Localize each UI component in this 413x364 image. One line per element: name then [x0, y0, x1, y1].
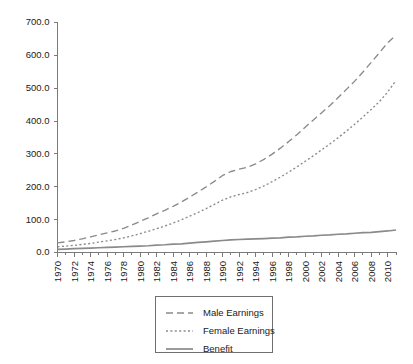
x-tick-label: 1990	[217, 261, 228, 282]
y-tick-label: 0.0	[36, 246, 49, 257]
x-tick-label: 2008	[366, 261, 377, 282]
x-tick-label: 1978	[118, 261, 129, 282]
axes-group	[58, 22, 397, 253]
x-tick-label: 1996	[267, 261, 278, 282]
y-tick-label: 500.0	[26, 82, 50, 93]
y-axis-ticks	[54, 23, 58, 253]
data-series-group	[58, 35, 397, 249]
series-line-female-earnings	[58, 80, 397, 246]
legend-label: Female Earnings	[203, 325, 275, 336]
y-tick-label: 300.0	[26, 148, 50, 159]
x-tick-label: 1974	[85, 261, 96, 282]
x-tick-label: 1980	[135, 261, 146, 282]
series-line-male-earnings	[58, 35, 397, 243]
x-tick-label: 1994	[250, 261, 261, 282]
y-axis-labels: 700.0600.0500.0400.0300.0200.0100.00.0	[26, 16, 50, 257]
x-axis-labels: 1970197219741976197819801982198419861988…	[52, 261, 393, 282]
y-tick-label: 400.0	[26, 115, 50, 126]
legend-label: Benefit	[203, 343, 233, 354]
x-tick-label: 2000	[300, 261, 311, 282]
y-tick-label: 200.0	[26, 181, 50, 192]
x-tick-label: 1992	[234, 261, 245, 282]
y-tick-label: 700.0	[26, 16, 50, 27]
chart-legend: Male EarningsFemale EarningsBenefit	[156, 297, 276, 355]
x-tick-label: 2002	[316, 261, 327, 282]
x-tick-label: 1986	[184, 261, 195, 282]
x-tick-label: 1976	[102, 261, 113, 282]
x-tick-label: 1982	[151, 261, 162, 282]
chart-canvas: 700.0600.0500.0400.0300.0200.0100.00.0 1…	[0, 0, 413, 364]
x-tick-label: 1970	[52, 261, 63, 282]
legend-label: Male Earnings	[203, 307, 264, 318]
x-tick-label: 2006	[349, 261, 360, 282]
x-tick-label: 1984	[168, 261, 179, 282]
x-tick-label: 1988	[201, 261, 212, 282]
x-tick-label: 2004	[333, 261, 344, 282]
y-tick-label: 600.0	[26, 49, 50, 60]
x-tick-label: 1998	[283, 261, 294, 282]
series-line-benefit	[58, 230, 397, 249]
legend-items: Male EarningsFemale EarningsBenefit	[166, 307, 275, 354]
y-tick-label: 100.0	[26, 214, 50, 225]
x-tick-label: 1972	[69, 261, 80, 282]
line-chart: 700.0600.0500.0400.0300.0200.0100.00.0 1…	[0, 0, 413, 364]
x-tick-label: 2010	[382, 261, 393, 282]
